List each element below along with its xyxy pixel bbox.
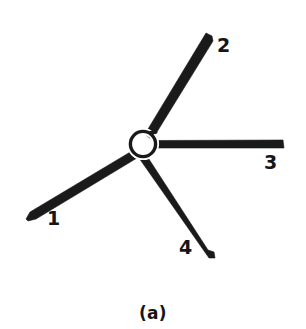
arm-3 [153,140,284,148]
figure-container: 1 2 3 4 (a) [0,0,306,329]
arm-label-4: 4 [179,238,192,257]
arm-2-rod [145,33,213,140]
figure-caption: (a) [0,303,306,323]
arm-2 [145,33,213,140]
arm-label-2: 2 [217,36,230,55]
arm-3-rod [153,140,284,148]
arm-label-1: 1 [47,209,60,228]
radial-hub-diagram [0,0,306,329]
arm-4-rod [139,153,215,258]
hub-ring [130,129,157,157]
arm-label-3: 3 [264,153,277,172]
arm-1-rod [26,151,137,221]
arm-4 [139,153,215,258]
arm-1 [26,151,137,221]
